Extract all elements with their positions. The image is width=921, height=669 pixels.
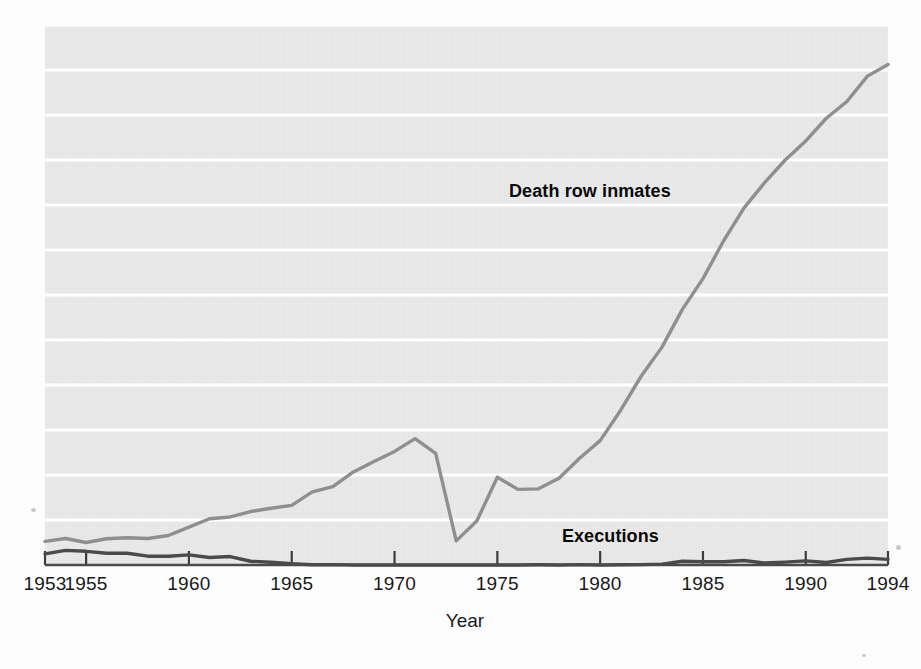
y-axis-tick-label: 750 [0, 417, 120, 439]
y-axis-tick-label: 1,750 [0, 237, 120, 259]
x-axis-tick-label: 1980 [579, 573, 622, 595]
y-axis-tick-label: 1,000 [0, 372, 120, 394]
gridlines [45, 25, 888, 565]
x-axis-tick-label: 1985 [681, 573, 724, 595]
series-lines [45, 65, 888, 565]
series-line-executions [45, 550, 888, 565]
chart-figure: 02505007501,0001,2501,5001,7502,0002,250… [0, 0, 921, 669]
x-axis-tick-label: 1990 [784, 573, 827, 595]
series-annotation-death-row-inmates: Death row inmates [509, 181, 671, 202]
y-axis-tick-label: 1,500 [0, 282, 120, 304]
y-axis-tick-label: 0 [0, 552, 120, 574]
x-axis-tick-label: 1994 [866, 573, 909, 595]
x-axis-tick-label: 1965 [270, 573, 313, 595]
x-axis-tick-label: 1960 [167, 573, 210, 595]
x-axis-tick-label: 1975 [476, 573, 519, 595]
x-axis-tick-label: 1970 [373, 573, 416, 595]
y-axis-tick-label: 2,750 [0, 57, 120, 79]
y-axis-tick-label: 500 [0, 462, 120, 484]
chart-canvas [0, 0, 921, 669]
y-axis-tick-label: 2,000 [0, 192, 120, 214]
x-axis-title: Year [446, 610, 484, 632]
series-annotation-executions: Executions [562, 526, 659, 547]
x-axis-tick-label: 1955 [65, 573, 108, 595]
y-axis-tick-label: 250 [0, 507, 120, 529]
y-axis-tick-label: 1,250 [0, 327, 120, 349]
y-axis-tick-label: 2,500 [0, 102, 120, 124]
y-axis-tick-label: 3,000 [0, 12, 120, 34]
y-axis-tick-label: 2,250 [0, 147, 120, 169]
x-axis-tick-label: 1953 [23, 573, 66, 595]
series-line-death-row-inmates [45, 65, 888, 543]
